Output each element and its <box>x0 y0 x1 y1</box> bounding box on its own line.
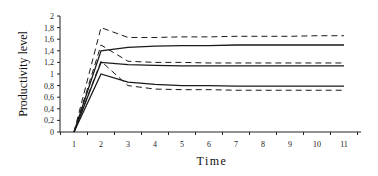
x-tick-label: 11 <box>340 140 348 149</box>
y-tick-label: 1,4 <box>44 47 54 56</box>
x-tick-label: 7 <box>234 140 238 149</box>
y-axis-title: Productivity level <box>16 31 30 117</box>
x-tick-label: 8 <box>261 140 265 149</box>
x-tick-label: 6 <box>207 140 211 149</box>
series-middle-dashed <box>74 45 344 132</box>
y-tick-label: 1 <box>50 70 54 79</box>
series-lower-dashed <box>74 61 344 132</box>
y-tick-label: 1,6 <box>44 35 54 44</box>
x-tick-label: 10 <box>313 140 321 149</box>
y-tick-label: 0,2 <box>44 116 54 125</box>
y-tick-label: 1,8 <box>44 24 54 33</box>
x-tick-label: 9 <box>288 140 292 149</box>
y-tick-label: 0,8 <box>44 82 54 91</box>
x-tick-label: 1 <box>72 140 76 149</box>
line-chart: 00,20,40,60,811,21,41,61,82 123456789101… <box>0 0 378 176</box>
x-ticks: 1234567891011 <box>61 132 358 149</box>
y-tick-label: 0,4 <box>44 105 54 114</box>
y-tick-label: 0,6 <box>44 93 54 102</box>
axes <box>60 16 361 132</box>
x-axis-title: Time <box>197 154 228 168</box>
series-upper-solid <box>74 45 344 132</box>
y-tick-label: 2 <box>50 12 54 21</box>
x-tick-label: 4 <box>153 140 157 149</box>
series-upper-dashed <box>74 28 344 132</box>
series-lower-solid <box>74 74 344 132</box>
x-tick-label: 5 <box>180 140 184 149</box>
x-tick-label: 3 <box>126 140 130 149</box>
y-tick-label: 0 <box>50 128 54 137</box>
y-tick-label: 1,2 <box>44 58 54 67</box>
x-tick-label: 2 <box>99 140 103 149</box>
plot-lines <box>74 28 344 132</box>
y-ticks: 00,20,40,60,811,21,41,61,82 <box>44 12 60 137</box>
